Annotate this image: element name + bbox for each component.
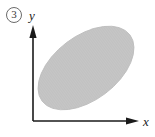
item-number-label: 3: [6, 7, 22, 23]
y-axis-label: y: [29, 9, 35, 22]
y-axis: [29, 25, 36, 121]
x-axis-label: x: [143, 115, 149, 128]
shaded-ellipse: [23, 9, 149, 126]
figure-canvas: [0, 0, 155, 137]
figure-container: 3 y x: [0, 0, 155, 137]
item-number-badge: 3: [6, 7, 22, 23]
x-axis: [33, 117, 139, 124]
